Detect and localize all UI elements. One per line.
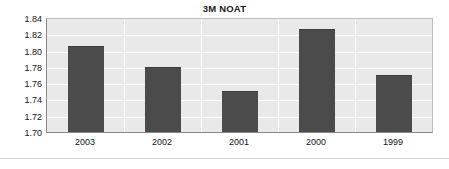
y-tick-label: 1.78 <box>2 64 42 73</box>
y-tick-label: 1.84 <box>2 15 42 24</box>
x-tick-label-1999: 1999 <box>354 137 432 147</box>
x-tick-label-2000: 2000 <box>277 137 355 147</box>
x-tick-label-2001: 2001 <box>200 137 278 147</box>
y-tick-label: 1.80 <box>2 48 42 57</box>
x-tick-label-2002: 2002 <box>123 137 201 147</box>
y-tick-label: 1.76 <box>2 80 42 89</box>
chart-container: 3M NOAT 1.84 1.82 1.80 1.78 1.76 1.74 1.… <box>0 0 449 169</box>
y-tick-label: 1.72 <box>2 113 42 122</box>
x-tick-label-2003: 2003 <box>46 137 124 147</box>
y-tick-label: 1.82 <box>2 31 42 40</box>
bottom-divider <box>0 158 449 159</box>
y-tick-label: 1.70 <box>2 129 42 138</box>
y-tick-label: 1.74 <box>2 96 42 105</box>
